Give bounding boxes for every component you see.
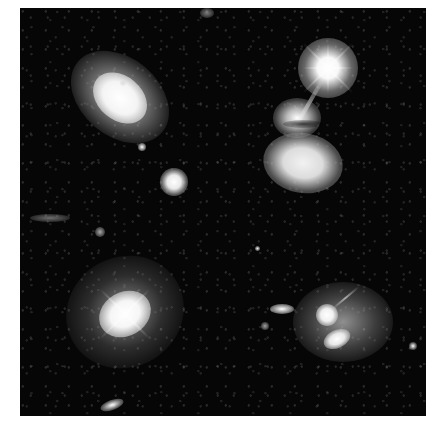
small-galaxy-top <box>95 227 105 237</box>
merger-envelope <box>293 282 393 362</box>
edge-streak <box>30 214 70 222</box>
panel-elliptical-galaxy <box>20 212 223 416</box>
galaxy-mosaic <box>20 8 426 416</box>
panel-star-and-galaxy-pair <box>223 8 426 212</box>
panel-merging-galaxies <box>223 212 426 416</box>
companion-star <box>138 143 146 151</box>
faint-top-object <box>200 8 214 18</box>
star-diffraction-spike <box>327 43 329 93</box>
field-star-upper-left <box>255 246 260 251</box>
field-star-right <box>409 342 417 350</box>
small-star <box>120 80 126 86</box>
companion-galaxy <box>160 168 188 196</box>
small-neighbor <box>261 322 269 330</box>
panel-spiral-galaxy <box>20 8 223 212</box>
elongated-neighbor <box>270 304 294 314</box>
dust-lane <box>283 120 323 128</box>
